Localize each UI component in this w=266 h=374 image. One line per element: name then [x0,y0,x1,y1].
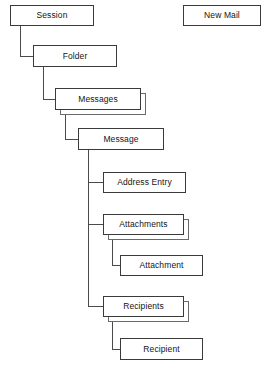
connector-recipients-to-recipient-vertical [112,321,113,349]
node-recipient[interactable]: Recipient [120,338,203,360]
node-attachment[interactable]: Attachment [120,255,203,276]
connector-messages-to-message-vertical [65,113,66,139]
node-address-entry[interactable]: Address Entry [103,172,186,193]
node-message-label: Message [103,135,138,144]
node-attachment-label: Attachment [140,261,184,270]
node-messages[interactable]: Messages [55,88,141,110]
node-new-mail-label: New Mail [204,11,240,20]
connector-attachments-to-attachment-vertical [112,239,113,265]
connector-folder-to-messages-vertical [43,67,44,99]
node-folder[interactable]: Folder [33,45,117,67]
node-message[interactable]: Message [78,128,164,150]
node-new-mail[interactable]: New Mail [183,5,261,26]
connector-recipients-to-recipient-horizontal [112,349,120,350]
connector-message-to-address-entry-horizontal [88,182,103,183]
connector-session-to-folder-horizontal [20,56,33,57]
node-recipients-label: Recipients [123,302,164,311]
node-messages-label: Messages [78,95,118,104]
connector-messages-to-message-horizontal [65,139,78,140]
connector-message-to-recipients-vertical [88,150,89,306]
node-folder-label: Folder [63,52,88,61]
node-address-entry-label: Address Entry [117,178,172,187]
connector-attachments-to-attachment-horizontal [112,265,120,266]
connector-folder-to-messages-horizontal [43,99,55,100]
node-recipient-label: Recipient [143,345,179,354]
connector-session-to-folder-vertical [20,26,21,56]
node-session-label: Session [37,11,68,20]
node-session[interactable]: Session [10,5,94,26]
connector-message-to-attachments-horizontal [88,224,103,225]
connector-message-to-recipients-horizontal [88,306,103,307]
diagram-canvas: SessionNew MailFolderMessagesMessageAddr… [0,0,266,374]
node-recipients[interactable]: Recipients [103,296,184,317]
node-attachments-label: Attachments [119,220,167,229]
node-attachments[interactable]: Attachments [103,214,184,235]
